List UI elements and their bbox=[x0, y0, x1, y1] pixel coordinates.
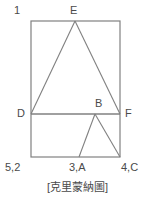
label-vertex-e: E bbox=[70, 4, 77, 16]
outer-rectangle bbox=[31, 21, 120, 157]
upper-triangle-left-leg-ED bbox=[31, 21, 75, 114]
lower-triangle-right-leg-BC bbox=[95, 114, 120, 157]
label-bottom-center: 3,A bbox=[69, 161, 86, 173]
label-bottom-left: 5,2 bbox=[5, 161, 20, 173]
label-vertex-d: D bbox=[17, 107, 25, 119]
label-vertex-b: B bbox=[95, 97, 102, 109]
cremona-diagram-figure: 1 E D B F 5,2 3,A 4,C [克里蒙納圖] bbox=[0, 0, 155, 199]
lower-triangle-left-leg-BA bbox=[79, 114, 95, 157]
figure-caption: [克里蒙納圖] bbox=[0, 181, 155, 194]
label-bottom-right: 4,C bbox=[121, 161, 138, 173]
label-vertex-f: F bbox=[125, 107, 132, 119]
label-top-left: 1 bbox=[14, 4, 20, 16]
